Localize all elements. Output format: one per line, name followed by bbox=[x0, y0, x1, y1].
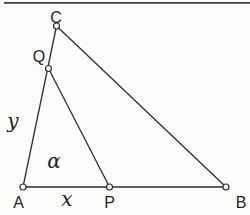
figure-canvas: APBCQyxα bbox=[0, 0, 250, 215]
vertex-label-B: B bbox=[236, 194, 247, 211]
point-marker-B bbox=[223, 184, 229, 190]
vertex-label-Q: Q bbox=[33, 48, 45, 65]
math-label-side-y: y bbox=[6, 109, 19, 133]
segment-CB bbox=[57, 26, 227, 187]
vertex-label-C: C bbox=[50, 9, 62, 26]
point-marker-P bbox=[107, 184, 113, 190]
vertex-label-A: A bbox=[13, 194, 24, 211]
geometry-figure: APBCQyxα bbox=[0, 0, 250, 215]
math-label-angle-alpha: α bbox=[47, 149, 61, 173]
point-marker-A bbox=[20, 184, 26, 190]
vertex-label-P: P bbox=[104, 194, 115, 211]
math-label-side-x: x bbox=[61, 187, 72, 211]
point-marker-Q bbox=[46, 66, 52, 72]
